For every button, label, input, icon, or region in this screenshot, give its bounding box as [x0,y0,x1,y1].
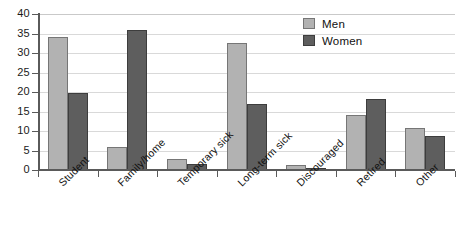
bar-men-student [48,37,68,170]
y-axis-tick-label: 25 [4,67,30,78]
y-axis-tick [32,53,38,54]
y-axis-tick [32,151,38,152]
y-axis-tick [32,14,38,15]
bar-men-retired [346,115,366,170]
legend-item-men: Men [303,15,379,32]
x-axis-tick [217,171,218,177]
x-axis-tick [336,171,337,177]
bar-men-other [405,128,425,170]
y-axis-tick [32,34,38,35]
x-axis-tick [276,171,277,177]
y-axis-tick-label: 30 [4,47,30,58]
bar-group [227,14,267,170]
legend-item-women: Women [303,32,379,49]
bar-men-long-term-sick [227,43,247,170]
plot-area [38,14,455,170]
y-axis-tick [32,92,38,93]
y-axis-line [38,13,40,171]
legend-swatch-men-icon [303,18,315,29]
bar-group [405,14,445,170]
legend-label-women: Women [322,35,362,47]
y-axis-tick-label: 20 [4,86,30,97]
bar-group [107,14,147,170]
y-axis-tick [32,131,38,132]
bar-group [48,14,88,170]
y-axis-tick-label: 10 [4,125,30,136]
y-axis-tick-label: 5 [4,145,30,156]
y-axis-tick [32,73,38,74]
x-axis-tick [38,171,39,177]
legend-swatch-women-icon [303,35,315,46]
bar-group [167,14,207,170]
legend: Men Women [299,12,383,53]
y-axis-tick [32,112,38,113]
y-axis-labels: 0510152025303540 [0,0,30,246]
bar-men-family-home [107,147,127,170]
y-axis-tick-label: 35 [4,28,30,39]
x-axis-tick [157,171,158,177]
bar-chart: 0510152025303540 StudentFamily/homeTempo… [0,0,462,246]
legend-label-men: Men [322,18,345,30]
y-axis-tick-label: 40 [4,8,30,19]
y-axis-tick-label: 15 [4,106,30,117]
y-axis-tick-label: 0 [4,164,30,175]
x-axis-tick [395,171,396,177]
x-axis-tick [455,171,456,177]
x-axis-tick [98,171,99,177]
